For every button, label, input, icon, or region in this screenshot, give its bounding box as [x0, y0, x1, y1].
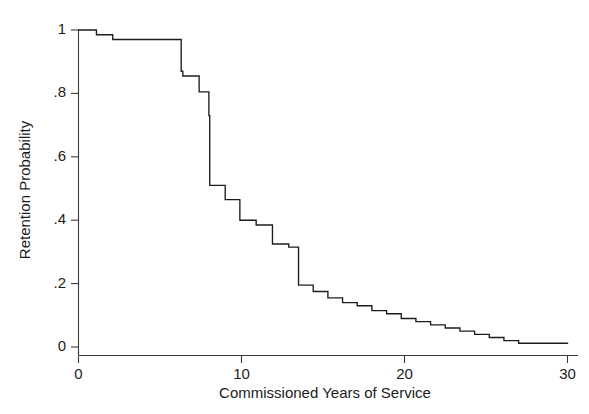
x-axis-title: Commissioned Years of Service [219, 384, 431, 401]
x-tick-label-0: 0 [74, 365, 82, 382]
y-tick-label-1: 1 [58, 20, 66, 37]
y-tick-label-08: .8 [53, 83, 66, 100]
x-axis-ticks [79, 356, 568, 364]
x-tick-label-10: 10 [233, 365, 250, 382]
y-axis-ticks [71, 30, 79, 347]
x-tick-label-30: 30 [559, 365, 576, 382]
x-tick-label-20: 20 [396, 365, 413, 382]
y-tick-label-06: .6 [53, 147, 66, 164]
y-axis-title: Retention Probability [16, 120, 33, 259]
retention-probability-chart: 1 .8 .6 .4 .2 0 0 10 20 30 Commissioned … [0, 0, 589, 414]
retention-step-curve [79, 30, 568, 344]
chart-canvas: 1 .8 .6 .4 .2 0 0 10 20 30 Commissioned … [0, 0, 589, 414]
y-tick-label-0: 0 [58, 337, 66, 354]
y-tick-label-02: .2 [53, 274, 66, 291]
y-tick-label-04: .4 [53, 210, 66, 227]
